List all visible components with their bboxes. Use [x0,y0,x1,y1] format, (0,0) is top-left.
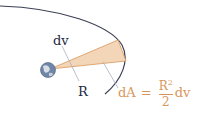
formula-lhs: dA [118,85,136,100]
area-formula: dA = R2 2 dv [118,76,190,109]
formula-denominator: 2 [162,96,170,109]
planet-globe-icon [41,63,56,78]
numerator-exponent: 2 [168,78,173,87]
formula-fraction: R2 2 [159,76,173,109]
formula-numerator: R2 [159,76,173,93]
formula-tail: dv [175,85,191,100]
radius-label: R [78,85,88,98]
formula-equals: = [141,85,152,100]
da-leader-line [103,62,118,88]
dv-label: dv [53,34,69,47]
numerator-base: R [159,79,168,93]
